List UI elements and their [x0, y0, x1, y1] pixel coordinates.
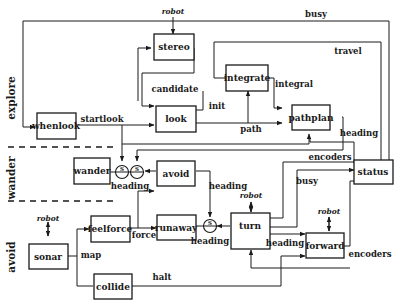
module-look: look: [156, 106, 196, 132]
svg-text:sonar: sonar: [34, 252, 62, 262]
svg-text:integrate: integrate: [224, 73, 271, 83]
svg-text:runaway: runaway: [155, 223, 198, 233]
label-heading-avoid: heading: [209, 181, 247, 191]
svg-text:collide: collide: [96, 282, 130, 292]
svg-text:forward: forward: [305, 241, 345, 251]
svg-text:wander: wander: [73, 166, 111, 176]
wire-candidate-b: [138, 48, 151, 101]
label-busy-top: busy: [305, 9, 328, 19]
label-encoders-forward: encoders: [348, 249, 391, 259]
label-path: path: [240, 124, 262, 134]
module-wander: wander: [73, 158, 111, 184]
label-startlook: startlook: [80, 114, 124, 124]
layer-label-explore: explore: [5, 76, 17, 120]
svg-text:stereo: stereo: [158, 42, 189, 52]
wire-feelforce-avoid: [138, 191, 154, 228]
label-halt: halt: [153, 272, 172, 282]
module-status: status: [354, 160, 393, 184]
label-robot-stereo: robot: [162, 7, 185, 16]
label-heading-runaway: heading: [191, 236, 229, 246]
svg-text:pathplan: pathplan: [289, 113, 334, 123]
layer-label-avoid: avoid: [5, 241, 17, 273]
svg-text:turn: turn: [239, 221, 261, 231]
module-turn: turn: [231, 213, 270, 249]
label-travel: travel: [334, 46, 362, 56]
module-avoid: avoid: [157, 161, 195, 186]
module-whenlook: whenlook: [31, 113, 81, 139]
wire-explore-bus: [122, 134, 309, 144]
module-feelforce: feelforce: [88, 216, 133, 242]
suppressor-node-turn: S: [204, 220, 217, 233]
label-heading-wander: heading: [111, 181, 149, 191]
label-robot-forward: robot: [318, 207, 341, 216]
label-robot-turn: robot: [240, 191, 263, 200]
subsumption-diagram: explore wander avoid: [0, 0, 401, 304]
wire-encoders-forward: [344, 181, 356, 246]
layer-label-wander: wander: [5, 156, 17, 200]
label-busy-turn: busy: [296, 176, 319, 186]
svg-text:S: S: [120, 166, 124, 172]
suppressor-node-avoid: S: [131, 166, 144, 179]
svg-text:S: S: [135, 166, 139, 172]
wire-map-collide: [77, 256, 93, 286]
svg-text:avoid: avoid: [163, 169, 190, 179]
svg-text:status: status: [358, 167, 389, 177]
module-sonar: sonar: [29, 244, 68, 269]
module-stereo: stereo: [154, 34, 194, 60]
label-encoders-status: encoders: [308, 152, 351, 162]
module-forward: forward: [305, 233, 345, 258]
label-heading-turn: heading: [266, 238, 304, 248]
module-pathplan: pathplan: [289, 105, 334, 130]
label-heading-pathplan: heading: [340, 128, 378, 138]
label-integral: integral: [275, 79, 314, 89]
svg-text:whenlook: whenlook: [31, 121, 81, 131]
wire-heading-avoid: [196, 171, 210, 217]
svg-text:look: look: [165, 114, 187, 124]
module-integrate: integrate: [224, 65, 271, 91]
label-robot-sonar: robot: [37, 214, 60, 223]
svg-text:feelforce: feelforce: [88, 224, 133, 234]
module-collide: collide: [94, 274, 132, 299]
label-init: init: [209, 101, 226, 111]
label-force: force: [132, 230, 157, 240]
svg-text:S: S: [208, 220, 212, 226]
label-map: map: [81, 250, 102, 260]
suppressor-node-wander: S: [116, 166, 129, 179]
label-candidate: candidate: [152, 84, 199, 94]
